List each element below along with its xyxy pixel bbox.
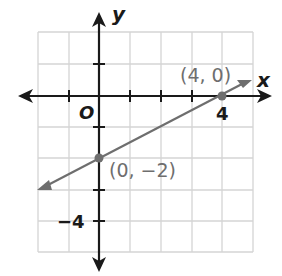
x-axis: [18, 89, 272, 103]
point-4-0: [218, 92, 227, 101]
point-0-neg2: [95, 154, 104, 163]
y-axis-label: y: [112, 4, 125, 24]
point-label-0-neg2: (0, −2): [109, 161, 176, 180]
origin-label: O: [79, 104, 94, 122]
line-arrow-upper-icon: [237, 80, 252, 88]
y-axis: [92, 12, 106, 272]
point-label-4-0: (4, 0): [180, 66, 231, 85]
coordinate-plane: [0, 0, 282, 276]
y-tick-label-neg4: −4: [57, 213, 85, 231]
line-arrow-lower-icon: [37, 180, 52, 190]
x-axis-label: x: [257, 70, 270, 90]
x-tick-label-4: 4: [216, 105, 229, 123]
